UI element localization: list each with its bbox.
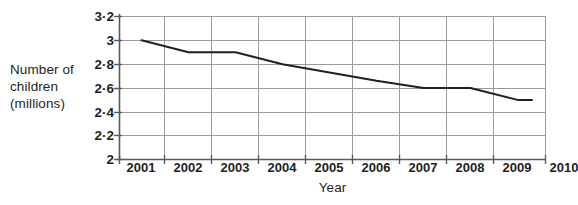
y-axis-ticks <box>114 17 122 160</box>
x-tick-label-2001: 2001 <box>127 160 156 175</box>
data-series-line <box>142 40 533 100</box>
x-tick-label-2006: 2006 <box>362 160 391 175</box>
x-tick-label-2004: 2004 <box>268 160 297 175</box>
x-tick-label-2002: 2002 <box>174 160 203 175</box>
x-axis-title: Year <box>119 180 546 195</box>
x-tick-label-2005: 2005 <box>315 160 344 175</box>
x-tick-label-2009: 2009 <box>503 160 532 175</box>
x-tick-label-2007: 2007 <box>409 160 438 175</box>
x-tick-label-2008: 2008 <box>456 160 485 175</box>
x-tick-label-2003: 2003 <box>221 160 250 175</box>
x-axis-tick-labels: 2001 2002 2003 2004 2005 2006 2007 2008 … <box>119 160 546 180</box>
x-tick-label-2010: 2010 <box>550 160 578 175</box>
horizontal-gridlines <box>120 17 546 136</box>
